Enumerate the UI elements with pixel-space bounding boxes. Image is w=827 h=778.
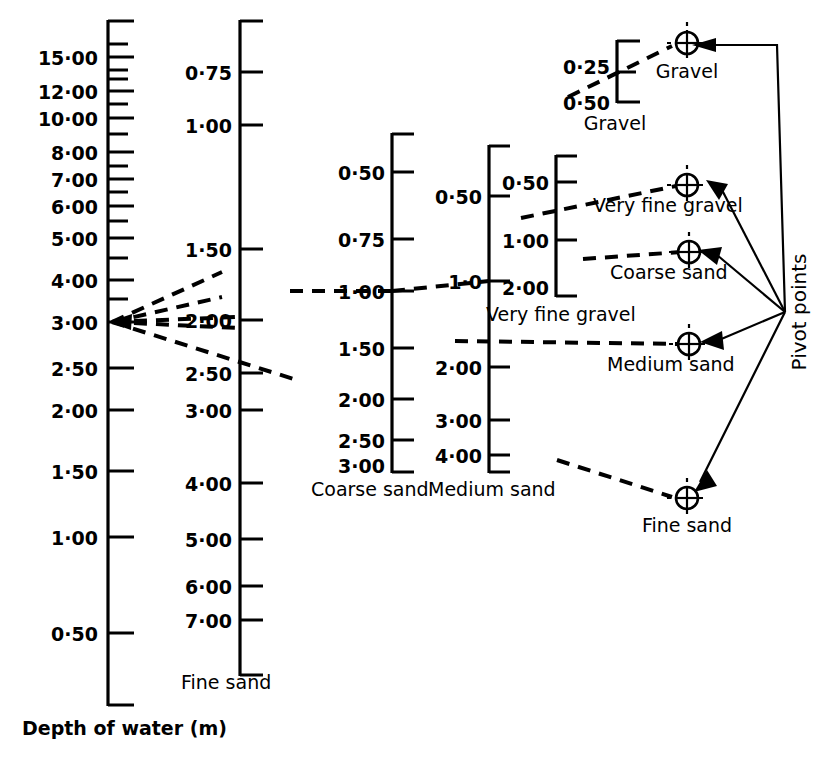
tick-label-depth: 15·00 — [38, 47, 98, 69]
scale-name-coarse-sand: Coarse sand — [311, 478, 429, 500]
tick-label-medium-sand: 4·00 — [435, 445, 482, 467]
tick-label-depth: 1·50 — [51, 461, 98, 483]
pivot-gravel[interactable]: Gravel — [656, 22, 718, 82]
leader-arrowhead-medium-sand — [700, 331, 724, 350]
scale-name-gravel: Gravel — [584, 112, 646, 134]
tick-label-medium-sand: 0·50 — [435, 186, 482, 208]
tick-label-depth: 0·50 — [51, 623, 98, 645]
nomogram-figure: 15·00 12·00 10·00 8·00 7·00 6·00 5·00 4·… — [0, 0, 827, 778]
tick-label-coarse-sand: 1·50 — [338, 338, 385, 360]
tick-label-fine-sand: 4·00 — [185, 473, 232, 495]
pivot-points-label: Pivot points — [787, 254, 811, 371]
tick-label-fine-sand: 7·00 — [185, 610, 232, 632]
pivot-label-gravel: Gravel — [656, 60, 718, 82]
tick-label-very-fine-gravel: 0·50 — [502, 172, 549, 194]
tick-label-fine-sand: 6·00 — [185, 576, 232, 598]
scale-gravel: 0·25 0·50 Gravel — [563, 40, 646, 134]
tick-label-depth: 7·00 — [51, 169, 98, 191]
tick-label-depth: 3·00 — [51, 312, 98, 334]
tick-label-fine-sand: 2·50 — [185, 363, 232, 385]
tick-label-coarse-sand: 2·00 — [338, 389, 385, 411]
tick-label-depth: 4·00 — [51, 270, 98, 292]
pivot-medium-sand[interactable]: Medium sand — [607, 324, 735, 375]
leader-coarse-sand — [717, 255, 785, 312]
tick-label-very-fine-gravel: 2·00 — [502, 277, 549, 299]
tick-label-coarse-sand: 3·00 — [338, 455, 385, 477]
tick-label-depth: 5·00 — [51, 228, 98, 250]
scale-name-medium-sand: Medium sand — [428, 478, 556, 500]
tick-label-medium-sand: 3·00 — [435, 410, 482, 432]
pivot-label-medium-sand: Medium sand — [607, 353, 735, 375]
pivot-label-fine-sand: Fine sand — [642, 514, 732, 536]
tick-label-depth: 1·00 — [51, 527, 98, 549]
scale-name-fine-sand: Fine sand — [181, 671, 271, 693]
tick-label-coarse-sand: 2·50 — [338, 430, 385, 452]
scale-depth-of-water: 15·00 12·00 10·00 8·00 7·00 6·00 5·00 4·… — [38, 20, 134, 706]
tick-label-fine-sand: 5·00 — [185, 529, 232, 551]
read-line-fine-sand — [557, 460, 672, 497]
tick-label-fine-sand: 1·50 — [185, 239, 232, 261]
tick-label-fine-sand: 1·00 — [185, 115, 232, 137]
pivot-label-coarse-sand: Coarse sand — [610, 261, 728, 283]
scale-name-very-fine-gravel: Very fine gravel — [486, 303, 636, 325]
figure-canvas: 15·00 12·00 10·00 8·00 7·00 6·00 5·00 4·… — [0, 0, 827, 778]
leader-very-fine-gravel — [722, 190, 785, 312]
tick-label-depth: 8·00 — [51, 142, 98, 164]
tick-label-fine-sand: 3·00 — [185, 400, 232, 422]
tick-label-coarse-sand: 0·75 — [338, 229, 385, 251]
scale-very-fine-gravel: 0·50 1·00 2·00 Very fine gravel — [486, 155, 636, 325]
figure-caption: Depth of water (m) — [22, 717, 227, 739]
tick-label-very-fine-gravel: 1·00 — [502, 230, 549, 252]
tick-label-depth: 12·00 — [38, 81, 98, 103]
tick-label-depth: 2·50 — [51, 358, 98, 380]
pivot-fine-sand[interactable]: Fine sand — [642, 478, 732, 536]
tick-label-depth: 6·00 — [51, 196, 98, 218]
read-line-coarse-sand-right — [583, 252, 681, 259]
scale-coarse-sand: 0·50 0·75 1·00 1·50 2·00 2·50 3·00 Coars… — [311, 133, 429, 500]
tick-label-depth: 10·00 — [38, 108, 98, 130]
tick-label-medium-sand: 2·00 — [435, 357, 482, 379]
tick-label-depth: 2·00 — [51, 400, 98, 422]
leader-medium-sand — [719, 312, 785, 340]
tick-label-coarse-sand: 0·50 — [338, 162, 385, 184]
tick-label-gravel: 0·25 — [563, 56, 610, 78]
leader-arrowhead-fine-sand — [694, 470, 717, 492]
tick-label-fine-sand: 0·75 — [185, 62, 232, 84]
